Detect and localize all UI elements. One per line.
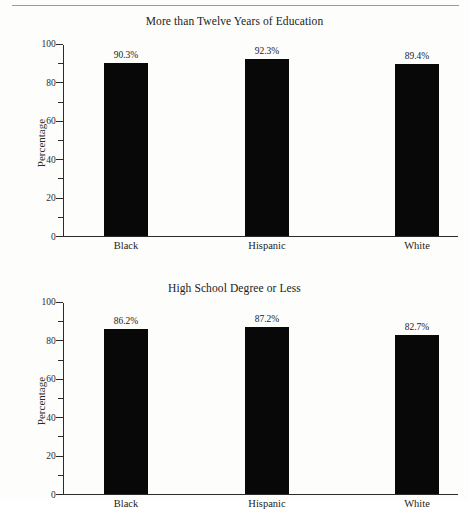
x-axis-category-label: Black [114,240,139,251]
bar-value-label: 90.3% [114,50,139,60]
bar-value-label: 86.2% [114,316,139,326]
y-axis-minor-tick [58,436,63,437]
bar-value-label: 87.2% [255,314,280,324]
plot-area: Percentage 020406080100 90.3%Black92.3%H… [63,45,458,237]
y-axis-tick-label: 20 [46,193,56,203]
bar-black: 86.2%Black [104,329,148,495]
bar-hispanic: 92.3%Hispanic [245,59,289,236]
y-axis-major-tick: 0 [56,494,63,495]
x-axis-category-label: Black [114,498,139,509]
y-axis-major-tick: 20 [56,198,63,199]
chart-title: High School Degree or Less [0,282,469,294]
y-axis-major-tick: 80 [56,340,63,341]
chart-more-than-twelve-years-of-education: More than Twelve Years of Education Perc… [0,12,469,258]
y-axis-minor-tick [58,475,63,476]
bar-value-label: 92.3% [255,46,280,56]
y-axis-tick-label: 100 [42,297,56,307]
y-axis-tick-label: 80 [46,78,56,88]
y-axis-major-tick: 60 [56,379,63,380]
y-axis-major-tick: 40 [56,159,63,160]
y-axis-major-tick: 40 [56,417,63,418]
y-axis-major-tick: 100 [56,302,63,303]
bar-hispanic: 87.2%Hispanic [245,327,289,494]
y-axis-major-tick: 60 [56,121,63,122]
y-axis-minor-tick [58,102,63,103]
y-axis-minor-tick [58,398,63,399]
x-axis-category-label: White [404,498,430,509]
y-axis-tick-label: 60 [46,374,56,384]
y-axis-line [63,303,64,495]
y-axis-minor-tick [58,140,63,141]
bar-white: 82.7%White [395,335,439,494]
chart-high-school-degree-or-less: High School Degree or Less Percentage 02… [0,278,469,501]
y-axis-minor-tick [58,178,63,179]
chart-title: More than Twelve Years of Education [0,15,469,27]
x-axis-category-label: Hispanic [248,498,285,509]
y-axis-tick-label: 60 [46,116,56,126]
y-axis-minor-tick [58,360,63,361]
x-axis-line [59,494,458,495]
y-axis-line [63,45,64,237]
x-axis-category-label: Hispanic [248,240,285,251]
y-axis-tick-label: 40 [46,155,56,165]
bar-value-label: 89.4% [405,51,430,61]
y-axis-tick-label: 80 [46,336,56,346]
y-axis-minor-tick [58,63,63,64]
plot-area: Percentage 020406080100 86.2%Black87.2%H… [63,303,458,495]
y-axis-tick-label: 100 [42,39,56,49]
bar-black: 90.3%Black [104,63,148,236]
y-axis-tick-label: 40 [46,413,56,423]
y-axis-tick-label: 20 [46,451,56,461]
y-axis-tick-label: 0 [51,490,56,500]
bar-value-label: 82.7% [405,322,430,332]
y-axis-major-tick: 100 [56,44,63,45]
y-axis-major-tick: 20 [56,456,63,457]
x-axis-category-label: White [404,240,430,251]
page-top-rule [12,5,459,6]
y-axis-minor-tick [58,217,63,218]
y-axis-major-tick: 80 [56,82,63,83]
y-axis-minor-tick [58,321,63,322]
bar-white: 89.4%White [395,64,439,236]
y-axis-tick-label: 0 [51,232,56,242]
x-axis-line [59,236,458,237]
y-axis-major-tick: 0 [56,236,63,237]
